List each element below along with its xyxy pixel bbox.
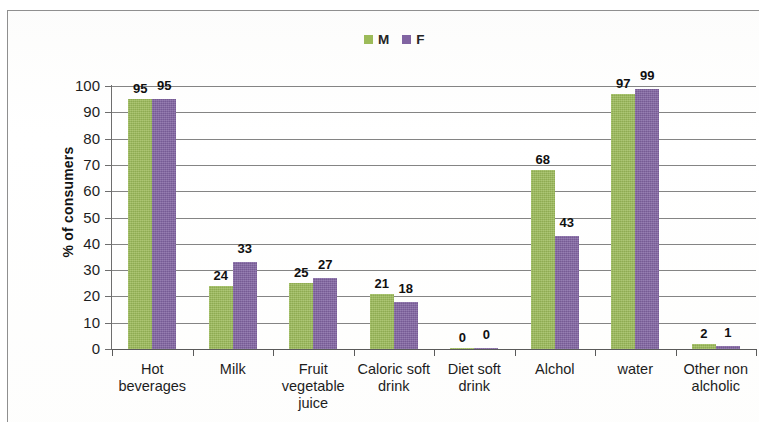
bar-texture xyxy=(209,286,233,349)
data-label: 95 xyxy=(157,79,171,92)
bar-group: 9595 xyxy=(112,86,193,349)
x-axis-category-label: Hotbeverages xyxy=(108,361,197,395)
bar-group: 2118 xyxy=(354,86,435,349)
bar-texture xyxy=(289,283,313,349)
bar-group: 2527 xyxy=(273,86,354,349)
y-axis-tick-label: 80 xyxy=(56,131,100,146)
x-axis-tick xyxy=(515,349,516,356)
data-label: 2 xyxy=(700,327,707,340)
category-label-line: water xyxy=(591,361,680,378)
legend-label: M xyxy=(378,33,389,47)
bar-texture xyxy=(474,348,498,350)
category-label-line: alcholic xyxy=(672,378,760,395)
bar-texture xyxy=(716,346,740,349)
y-axis-tick-label: 50 xyxy=(56,210,100,225)
bar-texture xyxy=(635,89,659,349)
bar-m[interactable]: 21 xyxy=(370,294,394,349)
category-label-line: Caloric soft xyxy=(350,361,439,378)
y-axis-tick xyxy=(105,218,112,219)
data-label: 97 xyxy=(616,77,630,90)
x-axis-tick xyxy=(273,349,274,356)
bar-m[interactable]: 97 xyxy=(611,94,635,349)
data-label: 27 xyxy=(318,258,332,271)
bar-texture xyxy=(555,236,579,349)
bar-m[interactable]: 95 xyxy=(128,99,152,349)
bar-group: 2433 xyxy=(193,86,274,349)
bar-f[interactable]: 27 xyxy=(313,278,337,349)
bar-texture xyxy=(394,302,418,349)
x-axis-category-label: Alchol xyxy=(511,361,600,378)
data-label: 95 xyxy=(133,82,147,95)
bar-texture xyxy=(450,348,474,350)
bar-f[interactable]: 33 xyxy=(233,262,257,349)
y-axis-tick xyxy=(105,112,112,113)
x-axis-tick xyxy=(434,349,435,356)
y-axis-tick xyxy=(105,165,112,166)
bar-f[interactable]: 95 xyxy=(152,99,176,349)
category-label-line: juice xyxy=(269,395,358,412)
x-axis-tick xyxy=(193,349,194,356)
category-label-line: vegetable xyxy=(269,378,358,395)
y-axis-tick xyxy=(105,349,112,350)
bar-m[interactable]: 0 xyxy=(450,348,474,350)
y-axis-tick xyxy=(105,86,112,87)
x-axis-tick xyxy=(112,349,113,356)
category-label-line: Hot xyxy=(108,361,197,378)
bar-m[interactable]: 24 xyxy=(209,286,233,349)
bar-m[interactable]: 25 xyxy=(289,283,313,349)
category-label-line: Fruit xyxy=(269,361,358,378)
data-label: 21 xyxy=(375,277,389,290)
x-axis-category-label: Diet softdrink xyxy=(430,361,519,395)
chart-legend: MF xyxy=(364,33,425,47)
y-axis-tick xyxy=(105,296,112,297)
data-label: 1 xyxy=(724,326,731,339)
category-label-line: drink xyxy=(430,378,519,395)
y-axis-tick xyxy=(105,323,112,324)
y-axis-tick-label: 70 xyxy=(56,157,100,172)
square-swatch-icon xyxy=(402,35,411,44)
data-label: 43 xyxy=(560,216,574,229)
bar-group: 6843 xyxy=(515,86,596,349)
data-label: 99 xyxy=(640,69,654,82)
y-axis-tick-label: 10 xyxy=(56,315,100,330)
bar-group: 9799 xyxy=(595,86,676,349)
chart-frame: MF % of consumers 1009080706050403020100… xyxy=(7,10,759,422)
category-label-line: drink xyxy=(350,378,439,395)
bar-f[interactable]: 99 xyxy=(635,89,659,349)
y-axis-tick-label: 0 xyxy=(56,341,100,356)
bar-group: 00 xyxy=(434,86,515,349)
y-axis-tick xyxy=(105,191,112,192)
y-axis-tick-label: 60 xyxy=(56,183,100,198)
bar-f[interactable]: 43 xyxy=(555,236,579,349)
bar-f[interactable]: 1 xyxy=(716,346,740,349)
legend-item-f[interactable]: F xyxy=(402,33,424,47)
y-axis-tick-label: 90 xyxy=(56,104,100,119)
x-axis-tick xyxy=(676,349,677,356)
category-label-line: Diet soft xyxy=(430,361,519,378)
category-label-line: Milk xyxy=(189,361,278,378)
x-axis-category-label: Fruitvegetablejuice xyxy=(269,361,358,412)
plot-area: 9595243325272118006843979921 xyxy=(112,86,756,349)
bar-texture xyxy=(233,262,257,349)
y-axis-tick-label: 30 xyxy=(56,262,100,277)
bar-texture xyxy=(692,344,716,349)
bar-texture xyxy=(128,99,152,349)
bar-texture xyxy=(370,294,394,349)
bar-f[interactable]: 0 xyxy=(474,348,498,350)
data-label: 0 xyxy=(459,331,466,344)
bar-texture xyxy=(152,99,176,349)
legend-item-m[interactable]: M xyxy=(364,33,389,47)
data-label: 68 xyxy=(536,153,550,166)
y-axis-tick-labels: 1009080706050403020100 xyxy=(50,11,100,426)
y-axis-tick xyxy=(105,139,112,140)
bar-texture xyxy=(313,278,337,349)
y-axis-tick-label: 20 xyxy=(56,288,100,303)
y-axis-tick xyxy=(105,270,112,271)
x-axis-category-label: water xyxy=(591,361,680,378)
bar-m[interactable]: 2 xyxy=(692,344,716,349)
y-axis-tick xyxy=(105,244,112,245)
data-label: 33 xyxy=(238,242,252,255)
category-label-line: Alchol xyxy=(511,361,600,378)
bar-f[interactable]: 18 xyxy=(394,302,418,349)
bar-m[interactable]: 68 xyxy=(531,170,555,349)
